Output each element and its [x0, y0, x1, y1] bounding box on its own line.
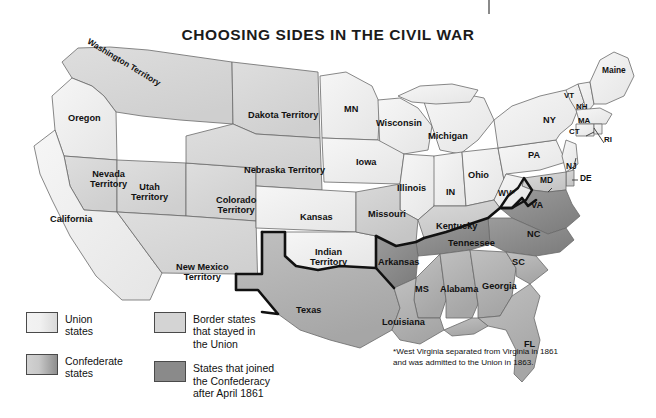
state-indiana	[434, 152, 466, 206]
legend-label-joined-after-april: States that joined the Confederacy after…	[193, 361, 274, 399]
state-indian-territory	[285, 232, 376, 270]
legend-label-border-states-line2: that stayed in	[193, 325, 255, 337]
legend-label-union-states: Union states	[65, 312, 93, 338]
legend-label-confederate-states-line2: states	[65, 367, 123, 379]
union-swatch	[26, 312, 58, 333]
footnote-west-virginia: *West Virginia separated from Virginia i…	[393, 347, 565, 369]
legend-item-union-states: Union states	[26, 312, 146, 338]
state-delaware	[566, 170, 574, 186]
joined-after-april-swatch	[154, 361, 186, 382]
legend-label-union-states-line2: states	[65, 325, 93, 337]
border-states-swatch	[154, 312, 186, 333]
state-dakota-territory	[232, 62, 320, 138]
state-florida-panhandle	[444, 318, 488, 336]
state-minnesota	[320, 72, 380, 140]
legend-label-union-states-line1: Union	[65, 313, 93, 325]
map-figure: CHOOSING SIDES IN THE CIVIL WAR	[0, 0, 656, 418]
state-new-york	[494, 90, 580, 148]
state-massachusetts	[576, 108, 612, 124]
state-new-jersey	[562, 140, 578, 172]
legend-label-confederate-states-line1: Confederate	[65, 355, 123, 367]
state-utah-territory	[117, 160, 186, 216]
legend-label-border-states: Border states that stayed in the Union	[193, 312, 255, 350]
confederate-swatch	[26, 354, 58, 375]
state-maine	[590, 52, 634, 104]
state-connecticut	[576, 124, 594, 136]
legend-column-left: Union states Confederate states	[26, 312, 146, 391]
legend-item-border-states: Border states that stayed in the Union	[154, 312, 324, 350]
legend-label-border-states-line1: Border states	[193, 313, 255, 325]
legend-label-border-states-line3: the Union	[193, 338, 255, 350]
legend-item-joined-after-april: States that joined the Confederacy after…	[154, 361, 324, 399]
state-colorado-territory	[186, 163, 256, 221]
legend-label-joined-after-april-line1: States that joined	[193, 362, 274, 374]
legend-item-confederate-states: Confederate states	[26, 354, 146, 380]
legend-label-joined-after-april-line3: after April 1861	[193, 387, 274, 399]
legend-label-joined-after-april-line2: the Confederacy	[193, 375, 274, 387]
state-kansas	[256, 186, 356, 232]
legend-label-confederate-states: Confederate states	[65, 354, 123, 380]
state-michigan-upper	[398, 84, 478, 104]
state-rhode-island	[594, 124, 602, 134]
legend-column-right: Border states that stayed in the Union S…	[154, 312, 324, 410]
